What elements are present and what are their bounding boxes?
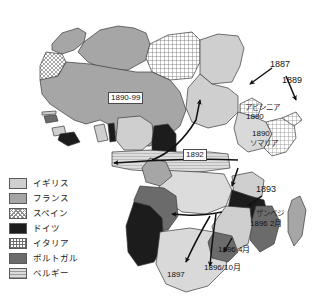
legend-item-uk: イギリス <box>9 177 105 190</box>
annotation-somalia-date: 1890 <box>252 129 270 138</box>
legend-label-germany: ドイツ <box>33 223 60 234</box>
annotation-somaliland-date: 1889 <box>282 75 302 85</box>
legend-label-uk: イギリス <box>33 178 69 189</box>
legend-label-portugal: ポルトガル <box>33 253 78 264</box>
legend-swatch-italy <box>9 238 27 249</box>
legend-item-spain: スペイン <box>9 207 105 220</box>
legend-label-spain: スペイン <box>33 208 68 219</box>
annotation-abyssinia-name: アビシニア <box>245 103 280 112</box>
legend-swatch-france <box>9 193 27 204</box>
annotation-zambezi-name: ザンベジ <box>256 209 284 218</box>
legend-item-germany: ドイツ <box>9 222 105 235</box>
legend-item-italy: イタリア <box>9 237 105 250</box>
legend-swatch-germany <box>9 223 27 234</box>
legend-swatch-uk <box>9 178 27 189</box>
map-legend: イギリス フランス スペイン ドイツ イタリア ポルトガル ベルギー <box>9 177 105 280</box>
legend-label-belgium: ベルギー <box>33 268 69 279</box>
legend-item-portugal: ポルトガル <box>9 252 105 265</box>
legend-swatch-spain <box>9 208 27 219</box>
annotation-rhodesia-date: 1893 <box>256 184 276 194</box>
africa-colonial-partition-map: 1890-99 1892 1887 1889 アビシニア 1890 1890 ソ… <box>0 0 317 307</box>
annotation-west-sahel-date: 1890-99 <box>108 92 143 104</box>
annotation-natal-date: 1896/10月 <box>204 263 241 272</box>
annotation-transvaal-date: 1896 4月 <box>218 245 250 254</box>
annotation-bechuana-date: 1897 <box>167 270 185 279</box>
annotation-somalia-name: ソマリア <box>250 139 278 148</box>
legend-label-italy: イタリア <box>33 238 69 249</box>
legend-swatch-belgium <box>9 268 27 279</box>
legend-label-france: フランス <box>33 193 69 204</box>
annotation-sudan-chad-date: 1892 <box>183 149 207 161</box>
annotation-eritrea-date: 1887 <box>270 59 290 69</box>
legend-item-belgium: ベルギー <box>9 267 105 280</box>
legend-swatch-portugal <box>9 253 27 264</box>
annotation-abyssinia-date: 1890 <box>246 112 264 121</box>
legend-item-france: フランス <box>9 192 105 205</box>
annotation-zambezi-date: 1896 2月 <box>250 219 282 228</box>
